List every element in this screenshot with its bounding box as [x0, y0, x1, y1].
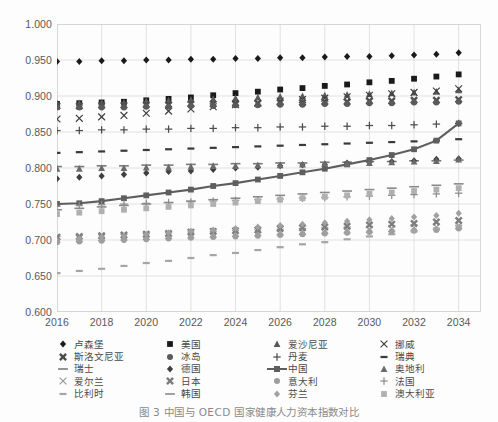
x-tick-label: 2026	[258, 316, 302, 328]
x-tick-label: 2020	[124, 316, 168, 328]
legend-item-瑞典[interactable]: 瑞典	[373, 351, 480, 363]
legend-label: 意大利	[288, 376, 318, 387]
series-卢森堡	[57, 49, 462, 65]
triangle-marker-icon	[373, 363, 395, 375]
plus-marker-icon	[373, 375, 395, 387]
y-axis-tick-labels: 1.0000.9500.9000.8500.8000.7500.7000.650…	[0, 24, 52, 312]
legend-item-德国[interactable]: 德国	[159, 363, 266, 375]
y-tick-label: 0.750	[4, 199, 52, 209]
x-tick-label: 2028	[303, 316, 347, 328]
legend-item-意大利[interactable]: 意大利	[266, 375, 373, 387]
legend-item-冰岛[interactable]: 冰岛	[159, 351, 266, 363]
diamond-marker-icon	[52, 338, 74, 350]
legend-label: 美国	[181, 339, 201, 350]
dash-long-marker-icon	[159, 388, 181, 400]
legend-label: 瑞士	[74, 363, 94, 374]
legend-row: 斯洛文尼亚冰岛丹麦瑞典	[52, 350, 452, 362]
legend-item-美国[interactable]: 美国	[159, 338, 266, 350]
legend-label: 冰岛	[181, 351, 201, 362]
x-tick-label: 2016	[35, 316, 79, 328]
x-thin-marker-icon	[373, 338, 395, 350]
legend-item-挪威[interactable]: 挪威	[373, 338, 480, 350]
legend-label: 斯洛文尼亚	[74, 351, 124, 362]
legend-item-奥地利[interactable]: 奥地利	[373, 363, 480, 375]
y-tick-label: 0.850	[4, 127, 52, 137]
figure-caption: 图 3 中国与 OECD 国家健康人力资本指数对比	[0, 404, 498, 422]
legend-label: 日本	[181, 376, 201, 387]
legend-item-芬兰[interactable]: 芬兰	[266, 388, 373, 400]
legend-item-中国[interactable]: 中国	[266, 363, 373, 375]
plot-area	[57, 24, 481, 312]
legend-item-卢森堡[interactable]: 卢森堡	[52, 338, 159, 350]
legend-label: 瑞典	[395, 351, 415, 362]
x-axis-tick-labels: 2016201820202022202420262028203020322034	[57, 316, 481, 332]
x-tick-label: 2018	[80, 316, 124, 328]
legend-label: 奥地利	[395, 363, 425, 374]
line-square-marker-icon	[266, 363, 288, 375]
legend-label: 丹麦	[288, 351, 308, 362]
legend-item-爱尔兰[interactable]: 爱尔兰	[52, 375, 159, 387]
circle-marker-icon	[159, 351, 181, 363]
square-marker-icon	[373, 388, 395, 400]
x-tick-label: 2030	[347, 316, 391, 328]
legend-label: 挪威	[395, 339, 415, 350]
legend-item-日本[interactable]: 日本	[159, 375, 266, 387]
x-tick-label: 2022	[169, 316, 213, 328]
x-tick-label: 2034	[437, 316, 481, 328]
x-thin-marker-icon	[52, 375, 74, 387]
legend-row: 比利时韩国芬兰澳大利亚	[52, 388, 452, 400]
legend-item-比利时[interactable]: 比利时	[52, 388, 159, 400]
legend-item-澳大利亚[interactable]: 澳大利亚	[373, 388, 480, 400]
legend-item-爱沙尼亚[interactable]: 爱沙尼亚	[266, 338, 373, 350]
legend-label: 爱尔兰	[74, 376, 104, 387]
dash-long-marker-icon	[52, 363, 74, 375]
legend-item-法国[interactable]: 法国	[373, 375, 480, 387]
triangle-marker-icon	[266, 338, 288, 350]
series-瑞士	[57, 159, 464, 167]
diamond-marker-icon	[159, 363, 181, 375]
legend-item-斯洛文尼亚[interactable]: 斯洛文尼亚	[52, 351, 159, 363]
legend-label: 德国	[181, 363, 201, 374]
dash-marker-icon	[52, 388, 74, 400]
x-bold-marker-icon	[52, 351, 74, 363]
circle-marker-icon	[266, 375, 288, 387]
legend-label: 比利时	[74, 388, 104, 399]
y-tick-label: 0.950	[4, 55, 52, 65]
legend-label: 法国	[395, 376, 415, 387]
y-tick-label: 1.000	[4, 19, 52, 29]
legend-row: 瑞士德国中国奥地利	[52, 363, 452, 375]
legend-item-丹麦[interactable]: 丹麦	[266, 351, 373, 363]
legend-label: 爱沙尼亚	[288, 339, 328, 350]
chart-canvas	[57, 24, 481, 312]
plus-marker-icon	[266, 351, 288, 363]
chart-legend: 卢森堡美国爱沙尼亚挪威斯洛文尼亚冰岛丹麦瑞典瑞士德国中国奥地利爱尔兰日本意大利法…	[52, 338, 452, 400]
series-芬兰	[57, 210, 462, 244]
y-tick-label: 0.700	[4, 235, 52, 245]
series-澳大利亚	[57, 185, 462, 217]
dash-marker-icon	[373, 351, 395, 363]
legend-item-韩国[interactable]: 韩国	[159, 388, 266, 400]
x-bold-marker-icon	[159, 375, 181, 387]
legend-label: 芬兰	[288, 388, 308, 399]
legend-row: 卢森堡美国爱沙尼亚挪威	[52, 338, 452, 350]
diamond-marker-icon	[266, 388, 288, 400]
series-韩国	[57, 183, 464, 211]
legend-item-瑞士[interactable]: 瑞士	[52, 363, 159, 375]
legend-row: 爱尔兰日本意大利法国	[52, 375, 452, 387]
legend-label: 卢森堡	[74, 339, 104, 350]
chart-figure: 1.0000.9500.9000.8500.8000.7500.7000.650…	[0, 0, 498, 422]
y-tick-label: 0.900	[4, 91, 52, 101]
x-tick-label: 2024	[214, 316, 258, 328]
legend-label: 韩国	[181, 388, 201, 399]
y-tick-label: 0.800	[4, 163, 52, 173]
gridlines	[57, 24, 481, 312]
legend-label: 中国	[288, 363, 308, 374]
legend-label: 澳大利亚	[395, 388, 435, 399]
x-tick-label: 2032	[392, 316, 436, 328]
square-marker-icon	[159, 338, 181, 350]
y-tick-label: 0.650	[4, 271, 52, 281]
